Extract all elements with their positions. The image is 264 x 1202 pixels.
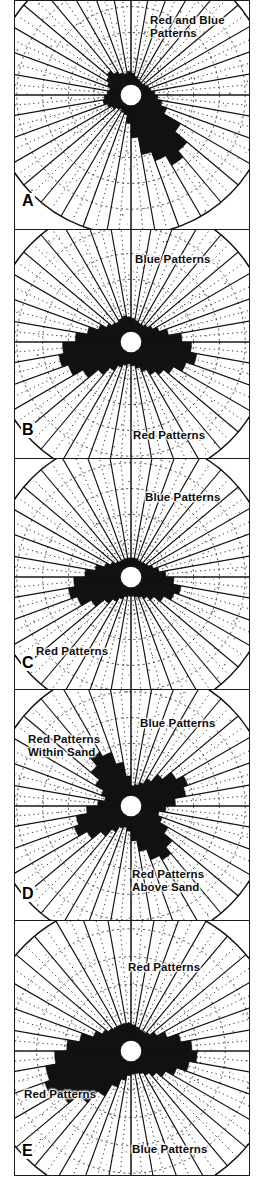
rose-panel-d: Blue PatternsRed PatternsWithin SandRed …	[14, 689, 250, 921]
panel-letter-c: C	[21, 655, 35, 671]
rose-plot-area: Red and BluePatternsA	[15, 1, 249, 229]
rose-centre-hub	[120, 1040, 142, 1062]
rose-diagram-b	[15, 230, 249, 458]
panel-letter-a: A	[21, 193, 35, 209]
rose-centre-hub	[120, 795, 142, 817]
rose-plot-area: Blue PatternsRed PatternsC	[15, 459, 249, 689]
rose-panel-a: Red and BluePatternsA	[14, 0, 250, 230]
rose-diagram-figure: Red and BluePatternsABlue PatternsRed Pa…	[0, 0, 264, 1202]
rose-petals	[103, 71, 187, 166]
rose-diagram-d	[15, 690, 249, 920]
rose-centre-hub	[120, 84, 142, 106]
rose-panel-e: Red PatternsRed PatternsBlue PatternsE	[14, 920, 250, 1176]
panel-letter-d: D	[21, 886, 35, 902]
rose-plot-area: Red PatternsRed PatternsBlue PatternsE	[15, 921, 249, 1175]
rose-centre-hub	[120, 566, 142, 588]
rose-diagram-a	[15, 1, 249, 229]
rose-panel-b: Blue PatternsRed PatternsB	[14, 229, 250, 459]
rose-diagram-c	[15, 459, 249, 689]
rose-panel-c: Blue PatternsRed PatternsC	[14, 458, 250, 690]
rose-diagram-e	[15, 921, 249, 1175]
rose-plot-area: Blue PatternsRed PatternsB	[15, 230, 249, 458]
panel-letter-b: B	[21, 422, 35, 438]
rose-plot-area: Blue PatternsRed PatternsWithin SandRed …	[15, 690, 249, 920]
panel-letter-e: E	[21, 1143, 34, 1159]
rose-centre-hub	[120, 331, 142, 353]
